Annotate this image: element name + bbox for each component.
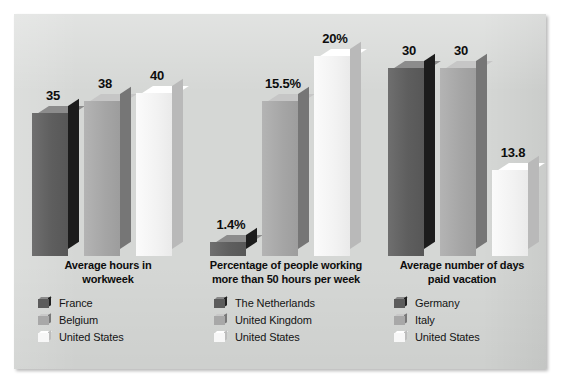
legend-item: Italy [394, 311, 546, 328]
legend-label: Germany [415, 297, 460, 309]
legend-title-line2: workweek [82, 273, 133, 285]
bar-france [32, 113, 68, 256]
legend-label: Belgium [59, 314, 98, 326]
bar-united-states-vacation [492, 170, 528, 256]
bar-united-states-hours [136, 93, 172, 256]
legend-title-line1: Average number of days [400, 259, 525, 271]
legend-title-line1: Percentage of people working [210, 259, 362, 271]
legend-title-line2: more than 50 hours per week [212, 273, 360, 285]
bar-side-face [120, 87, 131, 249]
bar-belgium [84, 101, 120, 256]
bar-value-label: 1.4% [204, 217, 258, 232]
bar-group-percentage-over-50-hours: 1.4% 15.5% 20% [200, 14, 370, 256]
bar-side-face [424, 54, 435, 249]
legend-label: France [59, 297, 93, 309]
legend-item: The Netherlands [214, 294, 374, 311]
bar-united-states-percentage [314, 56, 350, 256]
legend-swatch-icon [38, 331, 51, 342]
bar-side-face [298, 87, 309, 249]
bar-side-face [68, 99, 79, 249]
legend-title-line1: Average hours in [64, 259, 151, 271]
bar-value-label: 40 [130, 68, 184, 83]
legend-swatch-icon [38, 314, 51, 325]
legend-title: Average hours in workweek [22, 258, 194, 286]
plot-area: 35 38 40 1.4% [14, 14, 546, 256]
bar-value-label: 30 [382, 43, 436, 58]
bar-front-face [440, 68, 476, 256]
legend-label: United States [235, 331, 300, 343]
bar-value-label: 15.5% [256, 76, 310, 91]
bar-value-label: 13.8 [486, 145, 540, 160]
legend-item: United Kingdom [214, 311, 374, 328]
bar-italy [440, 68, 476, 256]
bar-front-face [388, 68, 424, 256]
bar-germany [388, 68, 424, 256]
bar-front-face [262, 101, 298, 256]
legend-average-hours: Average hours in workweek France Belgium [22, 258, 194, 345]
bar-front-face [210, 242, 246, 256]
legend-swatch-icon [394, 331, 407, 342]
legend-swatch-icon [38, 297, 51, 308]
legend-title: Average number of days paid vacation [378, 258, 546, 286]
bar-front-face [492, 170, 528, 256]
bar-the-netherlands [210, 242, 246, 256]
legend-swatch-icon [214, 314, 227, 325]
legend-item: Belgium [38, 311, 194, 328]
legend-swatch-icon [394, 297, 407, 308]
bar-group-paid-vacation: 30 30 13.8 [378, 14, 546, 256]
legend-title: Percentage of people working more than 5… [198, 258, 374, 286]
legend-label: United Kingdom [235, 314, 312, 326]
legend-percentage-over-50-hours: Percentage of people working more than 5… [198, 258, 374, 345]
legend-items: France Belgium United States [22, 294, 194, 345]
bar-value-label: 35 [26, 88, 80, 103]
legend-row: Average hours in workweek France Belgium [14, 258, 546, 369]
legend-swatch-icon [394, 314, 407, 325]
bar-side-face [528, 156, 539, 249]
legend-item: United States [214, 328, 374, 345]
bar-value-label: 30 [434, 43, 488, 58]
legend-label: Italy [415, 314, 435, 326]
bar-value-label: 38 [78, 76, 132, 91]
bar-front-face [136, 93, 172, 256]
bar-side-face [350, 42, 361, 249]
legend-label: United States [415, 331, 480, 343]
bar-front-face [84, 101, 120, 256]
legend-item: Germany [394, 294, 546, 311]
chart-panel: 35 38 40 1.4% [14, 14, 546, 369]
bar-group-average-hours: 35 38 40 [22, 14, 192, 256]
legend-paid-vacation: Average number of days paid vacation Ger… [378, 258, 546, 345]
legend-item: United States [394, 328, 546, 345]
bar-value-label: 20% [308, 31, 362, 46]
legend-item: United States [38, 328, 194, 345]
legend-swatch-icon [214, 297, 227, 308]
bar-front-face [314, 56, 350, 256]
legend-swatch-icon [214, 331, 227, 342]
bar-united-kingdom [262, 101, 298, 256]
legend-items: Germany Italy United States [378, 294, 546, 345]
bar-side-face [172, 79, 183, 249]
legend-label: The Netherlands [235, 297, 315, 309]
legend-items: The Netherlands United Kingdom United St… [198, 294, 374, 345]
legend-label: United States [59, 331, 124, 343]
legend-title-line2: paid vacation [428, 273, 496, 285]
bar-front-face [32, 113, 68, 256]
legend-item: France [38, 294, 194, 311]
